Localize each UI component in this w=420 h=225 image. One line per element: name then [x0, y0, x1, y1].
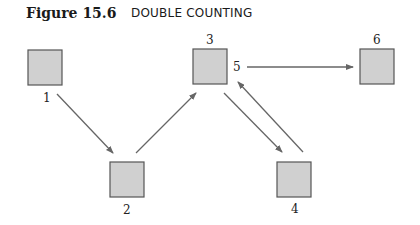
node-box-2 — [110, 162, 144, 197]
nodes-group — [28, 49, 394, 197]
node-box-6 — [360, 49, 394, 84]
node-box-1 — [28, 50, 62, 85]
node-label-5: 5 — [233, 60, 241, 74]
node-box-3 — [193, 49, 227, 84]
node-label-6: 6 — [373, 33, 381, 47]
arrow-1-to-2 — [57, 94, 113, 153]
node-label-1: 1 — [43, 91, 51, 105]
node-label-2: 2 — [123, 203, 131, 217]
arrow-3-to-4 — [224, 93, 282, 152]
arrow-2-to-3 — [136, 93, 196, 153]
node-label-3: 3 — [206, 33, 214, 47]
node-label-4: 4 — [291, 202, 299, 216]
node-box-4 — [277, 162, 311, 197]
double-counting-diagram: 123465 — [0, 0, 420, 225]
